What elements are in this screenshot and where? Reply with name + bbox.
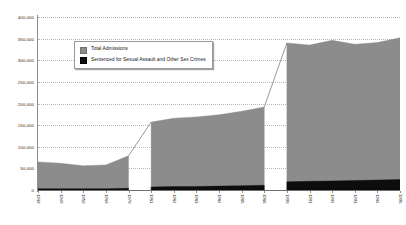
y-tick-label-200000: 200,000	[18, 101, 34, 106]
y-tick-label-300000: 300,000	[18, 58, 34, 63]
x-tick-mark-1986	[264, 191, 265, 193]
x-tick-label-1982: 1982	[171, 194, 176, 203]
x-tick-mark-1985	[242, 191, 243, 193]
x-tick-mark-1992	[332, 191, 333, 193]
y-tick-label-50000: 50,000	[20, 166, 34, 171]
area-total-admissions-segment-0	[38, 156, 129, 190]
x-tick-mark-1981	[151, 191, 152, 193]
legend-swatch-sex-crimes	[80, 57, 87, 64]
y-tick-label-400000: 400,000	[18, 15, 34, 20]
x-tick-label-1992: 1992	[330, 194, 335, 203]
x-axis-tick-labels: 1939194019501960197019811982198319841985…	[38, 191, 400, 225]
y-tick-label-350000: 350,000	[18, 36, 34, 41]
x-tick-label-1993: 1993	[352, 194, 357, 203]
y-tick-label-250000: 250,000	[18, 79, 34, 84]
legend-label-total-admissions: Total Admissions	[91, 46, 128, 52]
x-tick-label-1986: 1986	[262, 194, 267, 203]
x-tick-label-1994: 1994	[375, 194, 380, 203]
chart-legend: Total Admissions Sentenced for Sexual As…	[74, 41, 213, 69]
legend-item-sex-crimes: Sentenced for Sexual Assault and Other S…	[80, 57, 206, 65]
x-tick-label-1981: 1981	[149, 194, 154, 203]
x-tick-mark-1983	[196, 191, 197, 193]
x-tick-mark-1982	[174, 191, 175, 193]
x-tick-mark-1990	[287, 191, 288, 193]
y-axis-tick-labels: 050,000100,000150,000200,000250,000300,0…	[0, 0, 34, 225]
segment-connector-1	[264, 43, 287, 107]
area-total-admissions-segment-2	[287, 38, 400, 190]
legend-label-sex-crimes: Sentenced for Sexual Assault and Other S…	[91, 57, 206, 63]
x-tick-label-1960: 1960	[103, 194, 108, 203]
area-sex-crimes-segment-0	[38, 188, 129, 190]
x-tick-label-1991: 1991	[307, 194, 312, 203]
x-tick-label-1984: 1984	[217, 194, 222, 203]
area-total-admissions-segment-1	[151, 107, 264, 190]
legend-item-total-admissions: Total Admissions	[80, 46, 206, 54]
y-tick-label-150000: 150,000	[18, 123, 34, 128]
chart-container: 050,000100,000150,000200,000250,000300,0…	[0, 0, 406, 225]
x-tick-mark-1993	[355, 191, 356, 193]
x-tick-label-1990: 1990	[284, 194, 289, 203]
x-tick-label-1970: 1970	[126, 194, 131, 203]
y-tick-label-0: 0	[32, 188, 35, 193]
x-tick-label-1939: 1939	[36, 194, 41, 203]
x-tick-label-1940: 1940	[58, 194, 63, 203]
x-tick-label-1950: 1950	[81, 194, 86, 203]
x-tick-mark-1970	[129, 191, 130, 193]
legend-swatch-total-admissions	[80, 47, 87, 54]
x-tick-mark-1960	[106, 191, 107, 193]
y-tick-label-100000: 100,000	[18, 144, 34, 149]
x-tick-label-1985: 1985	[239, 194, 244, 203]
x-tick-mark-1950	[83, 191, 84, 193]
x-tick-mark-1939	[38, 191, 39, 193]
x-tick-mark-1984	[219, 191, 220, 193]
segment-connector-0	[129, 122, 152, 156]
x-tick-mark-1994	[377, 191, 378, 193]
x-tick-mark-1991	[310, 191, 311, 193]
x-tick-label-1983: 1983	[194, 194, 199, 203]
x-tick-label-1995: 1995	[398, 194, 403, 203]
x-tick-mark-1940	[61, 191, 62, 193]
x-tick-mark-1995	[400, 191, 401, 193]
